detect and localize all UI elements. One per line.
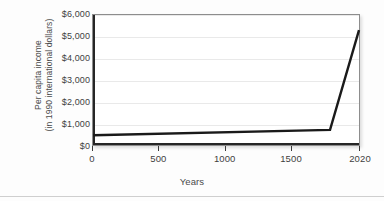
x-axis-tick-labels: 0500100015002020 <box>92 146 360 176</box>
y-axis-tick-label: $4,000 <box>62 53 90 63</box>
x-axis-tick-label: 2020 <box>349 153 371 164</box>
bottom-divider <box>0 196 384 197</box>
x-axis-tick-label: 1500 <box>280 153 302 164</box>
y-axis-title-line1: Per capita income <box>33 40 44 110</box>
x-axis-tick-mark <box>225 146 226 151</box>
data-series-line <box>93 15 359 145</box>
y-axis-tick-label: $3,000 <box>62 75 90 85</box>
x-axis-tick-mark <box>291 146 292 151</box>
chart-figure: Per capita income (in 1990 international… <box>0 0 384 201</box>
plot-area <box>92 14 360 146</box>
y-axis-tick-label: $5,000 <box>62 31 90 41</box>
x-axis-tick-label: 500 <box>150 153 166 164</box>
y-axis-tick-label: $0 <box>80 141 90 151</box>
x-axis-tick-mark <box>158 146 159 151</box>
y-axis-tick-label: $6,000 <box>62 9 90 19</box>
x-axis-title: Years <box>0 176 384 187</box>
x-axis-tick-label: 0 <box>89 153 94 164</box>
y-axis-tick-label: $1,000 <box>62 119 90 129</box>
y-axis-tick-label: $2,000 <box>62 97 90 107</box>
series-polyline <box>93 30 359 135</box>
x-axis-tick-mark <box>92 146 93 151</box>
x-axis-tick-label: 1000 <box>214 153 236 164</box>
x-axis-tick-mark <box>359 146 360 151</box>
y-axis-tick-labels: $0$1,000$2,000$3,000$4,000$5,000$6,000 <box>48 10 90 146</box>
